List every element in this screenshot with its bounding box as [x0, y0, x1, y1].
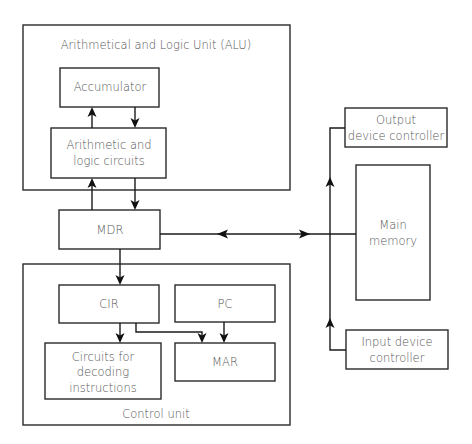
output-controller-label-line2: device controller [348, 129, 445, 143]
cpu-diagram: Arithmetical and Logic Unit (ALU) Accumu… [0, 0, 472, 444]
mdr-label: MDR [97, 223, 124, 237]
mdr-node: MDR [59, 210, 160, 249]
input-controller-node: Input device controller [346, 330, 448, 369]
input-controller-label-line2: controller [370, 351, 425, 365]
decoder-label-line2: decoding [77, 365, 129, 379]
cir-node: CIR [59, 285, 159, 323]
pc-node: PC [175, 285, 275, 322]
pc-label: PC [218, 297, 233, 311]
decoder-node: Circuits for decoding instructions [45, 343, 161, 399]
output-controller-node: Output device controller [345, 108, 447, 147]
main-memory-label-line2: memory [369, 234, 417, 248]
main-memory-label-line1: Main [379, 218, 406, 232]
output-controller-label-line1: Output [376, 113, 416, 127]
accumulator-node: Accumulator [60, 68, 159, 107]
alc-label-line2: logic circuits [73, 154, 145, 168]
main-memory-box [356, 165, 430, 300]
bus-mdr-main-memory [160, 230, 356, 239]
bus-input-to-output [326, 128, 347, 350]
alc-label-line1: Arithmetic and [66, 138, 151, 152]
decoder-label-line3: instructions [69, 381, 136, 395]
mar-label: MAR [212, 355, 238, 369]
main-memory-node: Main memory [356, 165, 430, 300]
decoder-label-line1: Circuits for [72, 350, 135, 364]
accumulator-label: Accumulator [74, 80, 147, 94]
alc-node: Arithmetic and logic circuits [51, 128, 166, 178]
cir-label: CIR [99, 297, 118, 311]
control-unit-label: Control unit [122, 407, 190, 421]
mar-node: MAR [175, 343, 275, 381]
alu-label: Arithmetical and Logic Unit (ALU) [61, 38, 252, 52]
alc-box [51, 128, 166, 178]
input-controller-label-line1: Input device [361, 335, 432, 349]
